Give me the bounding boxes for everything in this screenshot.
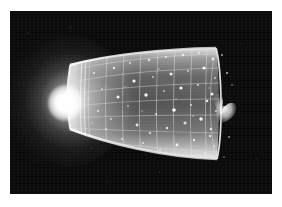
butterfly-galaxy [214, 94, 236, 123]
cone-vector-graphic [10, 11, 272, 194]
spacetime-cone [10, 11, 272, 194]
astronomy-image-plate [10, 11, 272, 194]
screenshot-root [0, 0, 282, 207]
